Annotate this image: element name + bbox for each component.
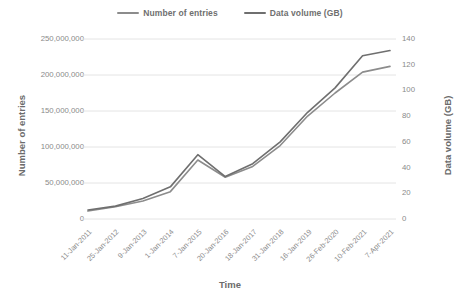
series-line-number-of-entries	[88, 66, 390, 211]
gridlines	[82, 39, 396, 219]
chart-container: Number of entries Data volume (GB) Numbe…	[0, 0, 460, 301]
plot-area	[0, 0, 460, 301]
series-line-data-volume	[88, 51, 390, 210]
